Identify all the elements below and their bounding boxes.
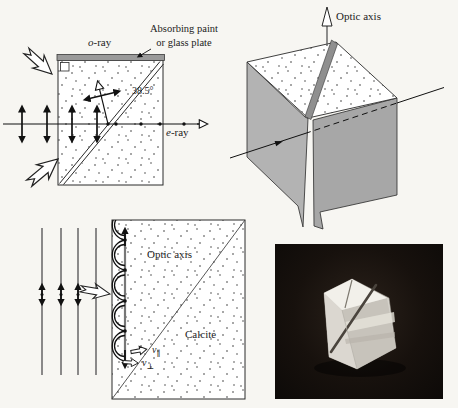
o-ray-suffix: -ray <box>94 36 112 48</box>
cube-crystal <box>247 40 397 229</box>
huygens-wavefront-diagram <box>0 204 260 408</box>
wavefront-polarization-arrows <box>41 289 80 300</box>
calcite-cube-diagram <box>229 0 458 240</box>
e-ray-label: e-ray <box>166 126 189 138</box>
absorbing-plate <box>57 55 165 61</box>
right-angle-marker <box>61 63 70 72</box>
plane-wavefronts <box>42 228 96 375</box>
optic-axis-arrow <box>322 7 332 46</box>
absorbing-paint-label: Absorbing paint or glass plate <box>139 22 229 49</box>
huygens-optic-axis-label: Optic axis <box>147 248 192 260</box>
calcite-photo <box>275 244 443 399</box>
calcite-block <box>112 220 245 399</box>
absorbing-paint-line2: or glass plate <box>139 36 229 50</box>
e-ray-suffix: -ray <box>171 126 189 138</box>
incident-light-arrow-top-icon <box>21 45 58 81</box>
absorbing-label-leader-arrow <box>141 49 151 55</box>
figure-canvas: o-ray Absorbing paint or glass plate 38.… <box>0 0 458 408</box>
apex-angle-label: 38.5° <box>132 85 154 97</box>
cube-optic-axis-label: Optic axis <box>336 10 381 22</box>
prism-crystal <box>57 55 165 186</box>
v-perpendicular-sub: ⊥ <box>146 362 154 371</box>
calcite-photo-crystal <box>275 244 443 399</box>
absorbing-paint-line1: Absorbing paint <box>139 22 229 36</box>
o-ray-label: o-ray <box>88 36 111 48</box>
v-perpendicular-label: v⊥ <box>142 357 154 373</box>
cube-right-face <box>313 98 397 229</box>
calcite-label: Calcite <box>185 328 216 340</box>
v-parallel-sub: ∥ <box>156 349 160 358</box>
